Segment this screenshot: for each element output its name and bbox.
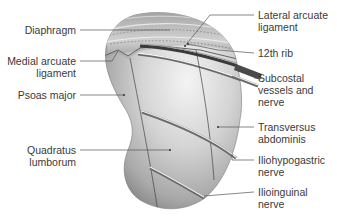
label-quadratus-lumborum: Quadratus lumborum bbox=[4, 144, 76, 168]
label-medial-arcuate-ligament: Medial arcuate ligament bbox=[0, 55, 76, 79]
leader-ilioinguinal bbox=[204, 192, 254, 196]
label-ilioinguinal-nerve: Ilioinguinal nerve bbox=[258, 186, 308, 210]
label-12th-rib: 12th rib bbox=[258, 47, 293, 59]
label-iliohypogastric-nerve: Iliohypogastric nerve bbox=[258, 154, 325, 178]
posterior-wall-shape bbox=[100, 0, 262, 212]
label-subcostal-vessels-and-nerve: Subcostal vessels and nerve bbox=[258, 72, 313, 108]
label-diaphragm: Diaphragm bbox=[12, 24, 76, 36]
label-psoas-major: Psoas major bbox=[4, 89, 76, 101]
label-lateral-arcuate-ligament: Lateral arcuate ligament bbox=[258, 9, 328, 33]
label-transversus-abdominis: Transversus abdominis bbox=[258, 121, 315, 145]
